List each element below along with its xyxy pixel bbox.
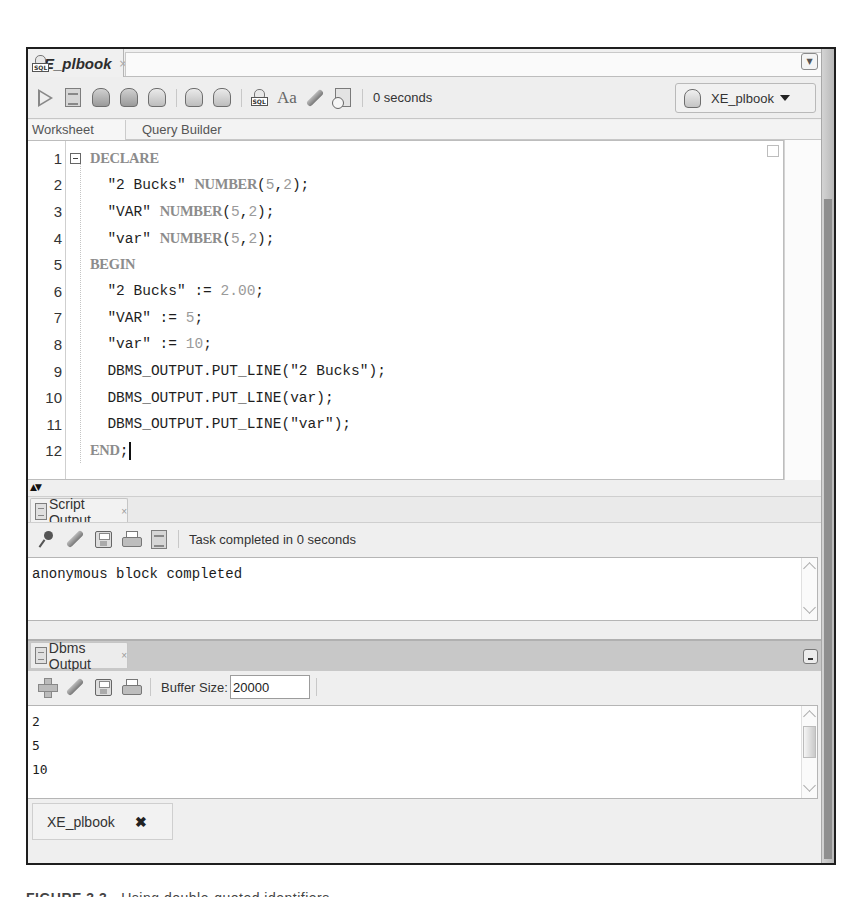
script-output-line: anonymous block completed xyxy=(32,566,242,582)
code-token: "2 Bucks" xyxy=(90,177,194,193)
rollback-icon[interactable] xyxy=(118,87,140,109)
keyword-token: DECLARE xyxy=(90,150,159,166)
code-line[interactable]: 2 "2 Bucks" NUMBER(5,2); xyxy=(28,172,783,199)
scrollbar[interactable] xyxy=(801,706,817,798)
code-line[interactable]: 10 DBMS_OUTPUT.PUT_LINE(var); xyxy=(28,384,783,411)
scrollbar[interactable] xyxy=(801,558,817,620)
pin-icon[interactable] xyxy=(36,528,58,550)
print-icon[interactable] xyxy=(120,528,142,550)
code-text: END; xyxy=(90,442,131,460)
tab-worksheet[interactable]: Worksheet xyxy=(28,120,126,141)
unshared-sql-worksheet-icon[interactable]: SQL xyxy=(248,87,270,109)
close-icon[interactable]: × xyxy=(121,506,127,517)
commit-icon[interactable] xyxy=(90,87,112,109)
code-token: "VAR" xyxy=(90,204,160,220)
code-lines: 1DECLARE2 "2 Bucks" NUMBER(5,2);3 "VAR" … xyxy=(28,145,783,464)
scroll-up-icon[interactable] xyxy=(803,562,816,575)
code-line[interactable]: 1DECLARE xyxy=(28,145,783,172)
autotrace-icon[interactable] xyxy=(211,87,233,109)
document-icon[interactable] xyxy=(148,528,170,550)
run-script-icon[interactable] xyxy=(62,87,84,109)
figure-number: FIGURE 3.3 xyxy=(26,890,107,897)
database-icon xyxy=(684,89,701,108)
line-number: 5 xyxy=(28,256,62,273)
to-upper-lower-icon[interactable]: Aa xyxy=(276,87,298,109)
script-output-text[interactable]: anonymous block completed xyxy=(28,557,818,621)
number-token: 2.00 xyxy=(221,283,256,299)
code-token: ( xyxy=(257,177,266,193)
connection-label: XE_plbook xyxy=(711,91,774,106)
scroll-down-icon[interactable] xyxy=(803,779,816,792)
code-token: "2 Bucks" := xyxy=(90,283,221,299)
code-text: "var" NUMBER(5,2); xyxy=(90,230,275,247)
script-output-tab-bar xyxy=(28,496,824,522)
scroll-up-icon[interactable] xyxy=(803,710,816,723)
clear-icon[interactable] xyxy=(64,676,86,698)
editor-corner-box xyxy=(767,145,779,157)
code-line[interactable]: 9 DBMS_OUTPUT.PUT_LINE("2 Bucks"); xyxy=(28,358,783,385)
code-token: ; xyxy=(203,336,212,352)
scroll-down-icon[interactable] xyxy=(803,601,816,614)
dbms-output-text[interactable]: 2 5 10 xyxy=(28,705,818,799)
close-icon[interactable]: × xyxy=(121,650,127,661)
run-statement-icon[interactable] xyxy=(34,87,56,109)
save-icon[interactable] xyxy=(92,676,114,698)
code-line[interactable]: 6 "2 Bucks" := 2.00; xyxy=(28,278,783,305)
explain-plan-icon[interactable] xyxy=(183,87,205,109)
code-line[interactable]: 4 "var" NUMBER(5,2); xyxy=(28,225,783,252)
tab-xe-plbook[interactable]: XE_plbook ✖ xyxy=(32,803,173,840)
sql-history-icon[interactable] xyxy=(332,87,354,109)
split-toggle-icon[interactable]: ▲▼ xyxy=(30,482,40,492)
code-token: ; xyxy=(255,283,264,299)
sql-tuning-advisor-icon[interactable] xyxy=(146,87,168,109)
clear-icon[interactable] xyxy=(64,528,86,550)
code-line[interactable]: 12END; xyxy=(28,438,783,465)
window-scrollbar[interactable] xyxy=(821,49,834,863)
line-number: 8 xyxy=(28,336,62,353)
print-icon[interactable] xyxy=(120,676,142,698)
code-token: DBMS_OUTPUT.PUT_LINE("var"); xyxy=(90,416,351,432)
bottom-tab-bar: XE_plbook ✖ xyxy=(28,799,824,863)
document-list-dropdown-icon[interactable]: ▼ xyxy=(801,53,818,70)
keyword-token: END xyxy=(90,442,120,458)
number-token: 5 xyxy=(231,231,240,247)
connection-select[interactable]: XE_plbook xyxy=(675,83,816,113)
close-icon[interactable]: ✖ xyxy=(135,814,147,830)
clear-icon[interactable] xyxy=(304,87,326,109)
line-number: 12 xyxy=(28,442,62,459)
line-number: 6 xyxy=(28,283,62,300)
toolbar-separator xyxy=(362,89,363,107)
code-line[interactable]: 3 "VAR" NUMBER(5,2); xyxy=(28,198,783,225)
code-line[interactable]: 7 "VAR" := 5; xyxy=(28,305,783,332)
scrollbar-thumb[interactable] xyxy=(803,726,816,758)
scrollbar-thumb[interactable] xyxy=(824,199,832,859)
document-tab-xe-plbook[interactable]: SQL XE_plbook × xyxy=(28,49,124,78)
code-line[interactable]: 5BEGIN xyxy=(28,251,783,278)
tab-script-output[interactable]: Script Output × xyxy=(30,498,128,524)
figure-caption: FIGURE 3.3Using double-quoted identifier… xyxy=(26,890,330,897)
toolbar-separator xyxy=(178,530,179,548)
editor-margin xyxy=(784,140,824,480)
tab-dbms-output[interactable]: Dbms Output × xyxy=(30,642,128,668)
save-icon[interactable] xyxy=(92,528,114,550)
buffer-size-input[interactable] xyxy=(230,675,310,699)
code-text: DBMS_OUTPUT.PUT_LINE("var"); xyxy=(90,416,351,432)
keyword-token: NUMBER xyxy=(194,176,257,192)
code-line[interactable]: 11 DBMS_OUTPUT.PUT_LINE("var"); xyxy=(28,411,783,438)
dbms-output-line: 5 xyxy=(32,738,40,753)
line-number: 2 xyxy=(28,176,62,193)
dbms-output-line: 2 xyxy=(32,714,40,729)
enable-dbms-output-icon[interactable] xyxy=(36,676,58,698)
tab-query-builder[interactable]: Query Builder xyxy=(138,120,225,141)
toolbar-separator xyxy=(176,89,177,107)
code-token: ); xyxy=(257,231,274,247)
toolbar-separator xyxy=(316,678,317,696)
code-text: "var" := 10; xyxy=(90,336,212,352)
dbms-output-tab-bar xyxy=(28,639,824,671)
collapse-icon[interactable] xyxy=(70,153,81,164)
number-token: 2 xyxy=(248,204,257,220)
code-line[interactable]: 8 "var" := 10; xyxy=(28,331,783,358)
text-cursor xyxy=(129,442,131,460)
sql-editor[interactable]: 1DECLARE2 "2 Bucks" NUMBER(5,2);3 "VAR" … xyxy=(28,140,784,480)
minimize-icon[interactable] xyxy=(803,649,818,664)
